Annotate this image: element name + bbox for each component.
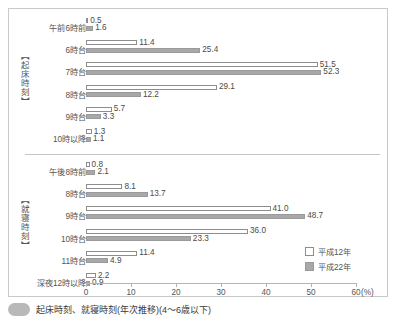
bar-value-label: 41.0 xyxy=(271,204,289,213)
legend-swatch-heisei22 xyxy=(305,262,314,271)
x-tick-label-40: 40 xyxy=(261,288,270,297)
bar-group: 5.7 xyxy=(86,107,376,113)
bar-value-label: 52.3 xyxy=(321,67,339,76)
bar-heisei22 xyxy=(86,214,305,219)
bar-value-label: 29.1 xyxy=(217,82,235,91)
bar-group: 12.2 xyxy=(86,92,376,98)
bar-group: 29.1 xyxy=(86,85,376,91)
x-tick-10 xyxy=(131,283,132,287)
figure-caption: 起床時刻、就寝時刻(年次推移)(4～6歳以下) xyxy=(8,303,408,316)
x-tick-label-50: 50 xyxy=(306,288,315,297)
legend-item-heisei12: 平成12年 xyxy=(305,245,351,257)
x-tick-20 xyxy=(176,283,177,287)
section-divider xyxy=(25,154,380,155)
legend-label-heisei12: 平成12年 xyxy=(318,245,351,257)
bar-value-label: 13.7 xyxy=(148,189,166,198)
x-tick-0 xyxy=(86,283,87,287)
bar-value-label: 1.6 xyxy=(93,23,106,32)
section-label-wake-time: 【起床時刻】 xyxy=(14,52,28,106)
bar-heisei12 xyxy=(86,206,271,211)
bar-group: 36.0 xyxy=(86,229,376,235)
bar-group: 2.1 xyxy=(86,170,376,176)
bar-heisei22 xyxy=(86,192,148,197)
bar-heisei22 xyxy=(86,92,141,97)
bar-value-label: 4.9 xyxy=(108,256,121,265)
category-label: 9時台 xyxy=(0,110,86,122)
bar-value-label: 36.0 xyxy=(248,226,266,235)
bar-heisei12 xyxy=(86,62,318,67)
bar-value-label: 48.7 xyxy=(305,211,323,220)
category-label: 10時台 xyxy=(0,232,86,244)
bar-group: 48.7 xyxy=(86,214,376,220)
x-tick-label-10: 10 xyxy=(126,288,135,297)
category-label: 午前6時前 xyxy=(0,21,86,33)
bar-value-label: 12.2 xyxy=(141,90,159,99)
bar-group: 3.3 xyxy=(86,114,376,120)
bar-group: 2.2 xyxy=(86,273,376,279)
x-tick-40 xyxy=(266,283,267,287)
x-tick-label-30: 30 xyxy=(216,288,225,297)
bar-group: 1.6 xyxy=(86,26,376,32)
caption-text: 起床時刻、就寝時刻(年次推移)(4～6歳以下) xyxy=(36,303,211,316)
bar-heisei22 xyxy=(86,70,321,75)
x-axis-unit-label: (%) xyxy=(361,288,374,297)
bar-heisei22 xyxy=(86,26,93,31)
bar-value-label: 2.1 xyxy=(95,167,108,176)
bar-group: 0.8 xyxy=(86,162,376,168)
bar-heisei22 xyxy=(86,170,95,175)
bar-heisei12 xyxy=(86,40,137,45)
category-label: 10時以降 xyxy=(0,132,86,144)
bar-heisei22 xyxy=(86,258,108,263)
bar-heisei22 xyxy=(86,48,200,53)
bar-group: 1.3 xyxy=(86,129,376,135)
x-tick-50 xyxy=(311,283,312,287)
bar-value-label: 25.4 xyxy=(200,45,218,54)
bar-value-label: 11.4 xyxy=(137,248,154,257)
bar-group: 8.1 xyxy=(86,184,376,190)
legend-swatch-heisei12 xyxy=(305,247,314,256)
bar-group: 41.0 xyxy=(86,206,376,212)
bar-value-label: 23.3 xyxy=(191,234,209,243)
bar-value-label: 1.1 xyxy=(91,134,104,143)
chart-screenshot: 午前6時前0.51.66時台11.425.47時台51.552.38時台29.1… xyxy=(0,0,411,321)
x-tick-label-60: 60 xyxy=(351,288,360,297)
category-label: 11時台 xyxy=(0,254,86,266)
section-label-bed-time: 【就寝時刻】 xyxy=(14,196,28,250)
category-label: 8時台 xyxy=(0,187,86,199)
bar-heisei12 xyxy=(86,229,248,234)
bar-group: 0.5 xyxy=(86,18,376,24)
bar-heisei12 xyxy=(86,184,122,189)
x-tick-60 xyxy=(356,283,357,287)
x-tick-30 xyxy=(221,283,222,287)
bar-group: 52.3 xyxy=(86,70,376,76)
bar-group: 13.7 xyxy=(86,192,376,198)
category-label: 8時台 xyxy=(0,88,86,100)
category-label: 6時台 xyxy=(0,43,86,55)
bar-group: 23.3 xyxy=(86,236,376,242)
category-label: 午後8時前 xyxy=(0,165,86,177)
legend-label-heisei22: 平成22年 xyxy=(318,260,351,272)
bar-value-label: 3.3 xyxy=(101,112,114,121)
bar-value-label: 8.1 xyxy=(122,182,135,191)
category-label: 深夜12時以降 xyxy=(0,276,86,288)
bar-heisei22 xyxy=(86,236,191,241)
x-tick-label-0: 0 xyxy=(84,288,89,297)
category-label: 7時台 xyxy=(0,65,86,77)
bar-group: 11.4 xyxy=(86,40,376,46)
bar-value-label: 11.4 xyxy=(137,38,154,47)
bar-group: 25.4 xyxy=(86,48,376,54)
legend-item-heisei22: 平成22年 xyxy=(305,260,351,272)
category-label: 9時台 xyxy=(0,209,86,221)
chart-panel: 午前6時前0.51.66時台11.425.47時台51.552.38時台29.1… xyxy=(8,8,388,297)
caption-badge-icon xyxy=(8,303,30,316)
bar-group: 1.1 xyxy=(86,137,376,143)
x-tick-label-20: 20 xyxy=(171,288,180,297)
chart-legend: 平成12年 平成22年 xyxy=(305,245,351,272)
bar-heisei22 xyxy=(86,114,101,119)
